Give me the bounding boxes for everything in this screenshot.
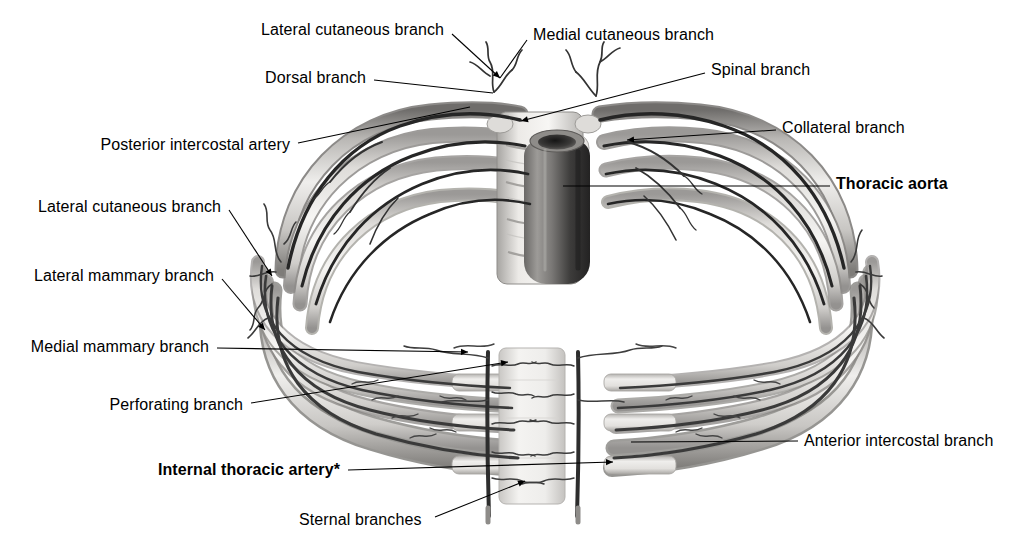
label-medial-cutaneous-branch: Medial cutaneous branch [533,27,714,43]
label-perforating-branch: Perforating branch [110,397,243,413]
leader-line [222,279,265,330]
label-thoracic-aorta: Thoracic aorta [836,176,948,192]
leader-arrowhead [266,268,272,276]
leader-line [627,130,776,140]
label-internal-thoracic-artery: Internal thoracic artery* [158,462,340,478]
leader-line [500,40,527,78]
leader-arrowhead [521,116,529,122]
leader-arrowhead [501,360,508,366]
anatomical-figure: Lateral cutaneous branchMedial cutaneous… [0,0,1009,545]
leader-arrowhead [461,349,468,355]
leader-line [452,34,500,78]
label-dorsal-branch: Dorsal branch [265,70,366,86]
leader-line [521,73,705,121]
leader-line [251,362,508,403]
label-spinal-branch: Spinal branch [711,62,810,78]
label-medial-mammary-branch: Medial mammary branch [31,339,209,355]
leader-line [374,80,493,93]
leader-arrowhead [606,459,613,465]
label-collateral-branch: Collateral branch [782,120,905,136]
leader-line [298,107,470,143]
leader-line [229,210,272,276]
label-lateral-mammary-branch: Lateral mammary branch [34,268,214,284]
leader-line [217,348,468,352]
label-sternal-branches: Sternal branches [299,512,422,528]
label-lateral-cutaneous-branch-top: Lateral cutaneous branch [261,22,444,38]
leader-line [435,481,525,517]
leader-line [631,441,798,442]
label-lateral-cutaneous-branch-mid: Lateral cutaneous branch [38,199,221,215]
leader-line [348,462,613,470]
leader-arrowhead [627,136,634,142]
label-posterior-intercostal-artery: Posterior intercostal artery [100,137,290,153]
label-anterior-intercostal-branch: Anterior intercostal branch [804,433,993,449]
